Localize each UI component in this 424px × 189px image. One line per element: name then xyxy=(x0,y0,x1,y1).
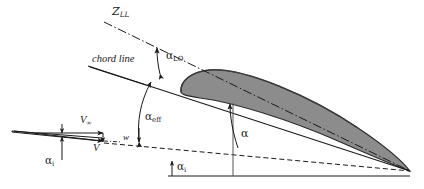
w-connector-line xyxy=(104,141,122,142)
alpha-lo-label: αLO xyxy=(166,50,183,63)
airfoil-shape xyxy=(181,70,410,171)
chord-line-label-rule xyxy=(90,67,146,85)
zero-lift-line-label: ZLL xyxy=(112,6,129,18)
w-downwash-label: w xyxy=(123,133,129,142)
chord-line-label: chord line xyxy=(92,54,134,65)
alpha-arc-arrow xyxy=(230,104,238,148)
velocity-triangle-group xyxy=(12,124,139,160)
alpha-i-bottom-label: αi xyxy=(177,161,186,174)
figure-aerodynamic-angles: ZLL chord line αLO αeff α αi αi V∞ V w xyxy=(0,0,424,189)
v-local-label: V xyxy=(93,143,99,154)
alpha-lo-arrow xyxy=(157,48,160,74)
v-infinity-label: V∞ xyxy=(80,115,91,127)
alpha-i-left-label: αi xyxy=(45,155,54,168)
diagram-canvas xyxy=(0,0,424,189)
alpha-label: α xyxy=(241,128,248,139)
alpha-eff-label: αeff xyxy=(145,111,161,124)
airfoil-section xyxy=(181,70,410,171)
